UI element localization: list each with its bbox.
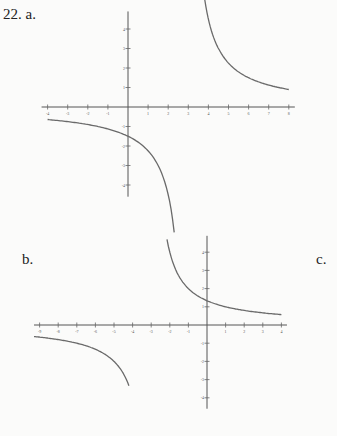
svg-text:1: 1 xyxy=(123,85,125,90)
svg-text:-1: -1 xyxy=(187,329,190,334)
svg-text:2: 2 xyxy=(202,286,204,291)
svg-text:3: 3 xyxy=(187,111,189,116)
svg-text:-1: -1 xyxy=(106,111,109,116)
svg-text:2: 2 xyxy=(167,111,169,116)
svg-text:6: 6 xyxy=(248,111,250,116)
svg-text:4: 4 xyxy=(123,27,125,32)
svg-text:-4: -4 xyxy=(46,111,49,116)
svg-text:-3: -3 xyxy=(201,377,204,382)
svg-text:5: 5 xyxy=(228,111,230,116)
svg-text:-3: -3 xyxy=(66,111,69,116)
svg-text:-2: -2 xyxy=(168,329,171,334)
svg-text:2: 2 xyxy=(243,329,245,334)
svg-text:-3: -3 xyxy=(150,329,153,334)
svg-text:3: 3 xyxy=(262,329,264,334)
curve-branch xyxy=(48,120,175,233)
svg-text:7: 7 xyxy=(268,111,270,116)
svg-text:-2: -2 xyxy=(86,111,89,116)
svg-text:8: 8 xyxy=(288,111,290,116)
svg-text:-4: -4 xyxy=(131,329,134,334)
svg-text:-3: -3 xyxy=(122,163,125,168)
svg-text:1: 1 xyxy=(147,111,149,116)
svg-text:-6: -6 xyxy=(94,329,97,334)
svg-text:3: 3 xyxy=(202,268,204,273)
graph-b: -9-8-7-6-5-4-3-2-11234-4-3-2-11234 xyxy=(34,236,287,409)
graph-a: -4-3-2-112345678-4-3-2-11234 xyxy=(42,0,295,232)
svg-text:4: 4 xyxy=(207,111,209,116)
svg-text:-1: -1 xyxy=(122,124,125,129)
svg-text:-1: -1 xyxy=(201,341,204,346)
svg-text:-7: -7 xyxy=(75,329,78,334)
svg-text:1: 1 xyxy=(225,329,227,334)
svg-text:-2: -2 xyxy=(122,144,125,149)
curve-branch xyxy=(167,239,281,314)
svg-text:3: 3 xyxy=(123,46,125,51)
curve-branch xyxy=(34,337,129,386)
svg-text:-2: -2 xyxy=(201,359,204,364)
graphs: -4-3-2-112345678-4-3-2-11234-9-8-7-6-5-4… xyxy=(0,0,337,436)
curve-branch xyxy=(200,0,288,89)
svg-text:-4: -4 xyxy=(122,183,125,188)
svg-text:1: 1 xyxy=(202,304,204,309)
svg-text:2: 2 xyxy=(123,66,125,71)
svg-text:4: 4 xyxy=(280,329,282,334)
svg-text:-9: -9 xyxy=(38,329,41,334)
svg-text:-8: -8 xyxy=(57,329,60,334)
svg-text:-5: -5 xyxy=(112,329,115,334)
svg-text:-4: -4 xyxy=(201,395,204,400)
svg-text:4: 4 xyxy=(202,250,204,255)
